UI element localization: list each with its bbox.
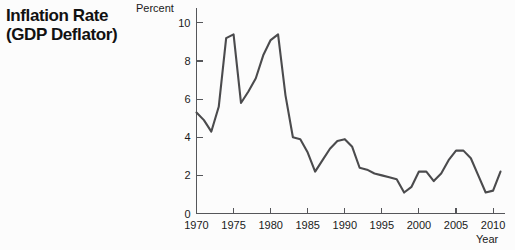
line-chart-plot: 0246810 19701975198019851990199520002005… [0, 0, 515, 250]
x-tick-label: 2000 [407, 219, 431, 231]
y-tick-label: 6 [184, 93, 190, 105]
x-tick-label: 1970 [184, 219, 208, 231]
x-tick-label: 1980 [258, 219, 282, 231]
x-tick-label: 1975 [221, 219, 245, 231]
y-tick-label: 4 [184, 131, 190, 143]
y-tick-label: 2 [184, 169, 190, 181]
x-axis-ticks: 197019751980198519901995200020052010 [184, 208, 505, 231]
x-tick-label: 1990 [333, 219, 357, 231]
x-tick-label: 2010 [481, 219, 505, 231]
y-axis-ticks: 0246810 [178, 17, 202, 220]
x-tick-label: 2005 [444, 219, 468, 231]
data-series-line [197, 34, 501, 192]
x-tick-label: 1995 [370, 219, 394, 231]
y-tick-label: 8 [184, 55, 190, 67]
y-tick-label: 10 [178, 17, 190, 29]
chart-figure: Inflation Rate (GDP Deflator) Percent Ye… [0, 0, 515, 250]
x-tick-label: 1985 [295, 219, 319, 231]
